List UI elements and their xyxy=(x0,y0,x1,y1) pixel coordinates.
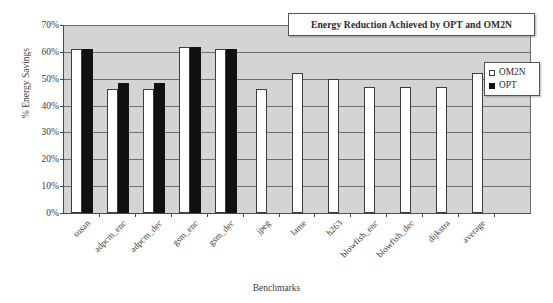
bar-gsm_dec-om2n xyxy=(215,49,226,213)
bar-jpeg-om2n xyxy=(256,89,267,213)
x-tick-label-h263: h263 xyxy=(324,218,344,238)
bar-blowfish_dec-om2n xyxy=(400,87,411,213)
bar-gsm_dec-opt xyxy=(226,49,237,213)
bar-h263-om2n xyxy=(328,79,339,213)
legend-item-om2n: OM2N xyxy=(489,66,535,79)
y-tick-label: 0% xyxy=(46,208,59,218)
bar-group xyxy=(136,25,172,213)
x-tick-label-average: average xyxy=(461,218,488,245)
x-tick-label-dijkstra: dijkstra xyxy=(425,218,451,244)
bar-group xyxy=(387,25,423,213)
plot-area: 70%60%50%40%30%20%10%0% xyxy=(63,25,531,214)
bar-group xyxy=(100,25,136,213)
chart-title: Energy Reduction Achieved by OPT and OM2… xyxy=(288,13,535,36)
chart-figure: % Energy Savings 70%60%50%40%30%20%10%0%… xyxy=(0,0,553,303)
empty-category-slot xyxy=(495,25,531,213)
filled-square-icon xyxy=(489,83,495,89)
bar-group xyxy=(64,25,100,213)
legend-label: OPT xyxy=(499,79,517,92)
bar-blowfish_enc-om2n xyxy=(364,87,375,213)
x-tick-label-adpcm_enc: adpcm_enc xyxy=(92,218,128,254)
x-axis-title: Benchmarks xyxy=(0,283,553,293)
bar-group xyxy=(244,25,280,213)
bar-group xyxy=(208,25,244,213)
bar-gsm_enc-om2n xyxy=(179,47,190,214)
legend-item-opt: OPT xyxy=(489,79,535,92)
legend-label: OM2N xyxy=(499,66,525,79)
y-tick-label: 60% xyxy=(42,47,59,57)
y-tick-label: 40% xyxy=(42,101,59,111)
bar-group xyxy=(315,25,351,213)
x-axis-tick-labels: susanadpcm_encadpcm_decgsm_encgsm_decjpe… xyxy=(63,214,530,276)
bar-gsm_enc-opt xyxy=(190,47,201,214)
y-axis-title: % Energy Savings xyxy=(21,13,31,153)
legend: OM2NOPT xyxy=(484,62,540,96)
bar-group xyxy=(351,25,387,213)
bar-susan-opt xyxy=(82,49,93,213)
y-tick-label: 70% xyxy=(42,20,59,30)
x-tick-label-blowfish_enc: blowfish_enc xyxy=(338,218,379,259)
bar-group xyxy=(280,25,316,213)
x-tick-label-gsm_dec: gsm_dec xyxy=(206,218,236,248)
bar-group xyxy=(172,25,208,213)
bar-adpcm_dec-opt xyxy=(154,83,165,213)
chart-title-text: Energy Reduction Achieved by OPT and OM2… xyxy=(311,19,512,30)
x-tick-label-lame: lame xyxy=(288,218,307,237)
x-tick-label-adpcm_dec: adpcm_dec xyxy=(128,218,164,254)
y-tick-label: 50% xyxy=(42,74,59,84)
bar-adpcm_enc-om2n xyxy=(107,89,118,213)
y-tick-label: 20% xyxy=(42,154,59,164)
x-tick-label-jpeg: jpeg xyxy=(254,218,272,236)
bar-average-om2n xyxy=(472,73,483,213)
bar-susan-om2n xyxy=(71,49,82,213)
bar-adpcm_enc-opt xyxy=(118,83,129,213)
x-tick-label-gsm_enc: gsm_enc xyxy=(170,218,200,248)
x-tick-label-blowfish_dec: blowfish_dec xyxy=(374,218,415,259)
bar-group xyxy=(423,25,459,213)
bar-group xyxy=(459,25,495,213)
bar-dijkstra-om2n xyxy=(436,87,447,213)
bar-group-container xyxy=(64,25,531,213)
hollow-square-icon xyxy=(489,70,495,76)
x-tick-label-susan: susan xyxy=(71,218,92,239)
y-tick-label: 10% xyxy=(42,181,59,191)
bar-lame-om2n xyxy=(292,73,303,213)
bar-adpcm_dec-om2n xyxy=(143,89,154,213)
y-tick-label: 30% xyxy=(42,127,59,137)
